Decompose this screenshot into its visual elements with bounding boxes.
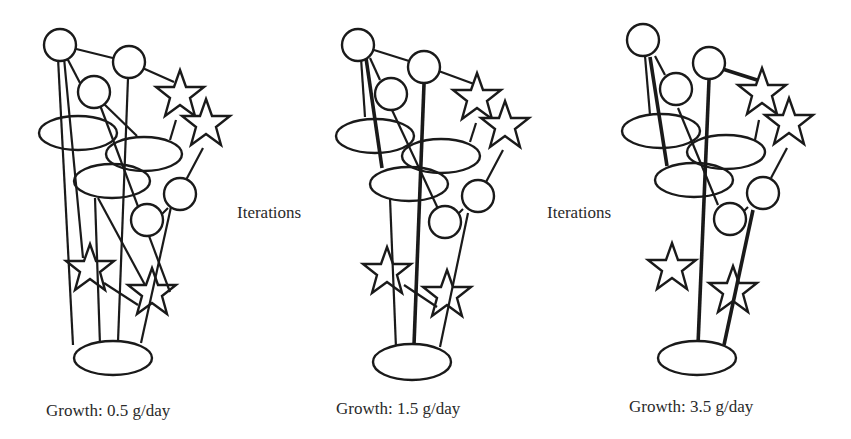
circle-node [375, 78, 407, 110]
ellipse-node [74, 164, 150, 198]
star-node [66, 244, 114, 290]
root-ellipse-node [74, 341, 152, 375]
root-ellipse-node [373, 344, 451, 380]
iterations-label-1: Iterations [237, 203, 301, 223]
circle-node [714, 203, 746, 235]
circle-node [747, 177, 779, 209]
panel-2-network [336, 29, 529, 380]
circle-node [78, 76, 110, 108]
circle-node [131, 204, 163, 236]
circle-node [429, 206, 461, 238]
circle-node [627, 24, 659, 56]
panel-1-network [39, 29, 230, 375]
circle-node [408, 51, 440, 83]
circle-node [462, 180, 494, 212]
panel-3-caption: Growth: 3.5 g/day [629, 397, 753, 417]
ellipse-node [655, 163, 733, 197]
iterations-label-2: Iterations [547, 203, 611, 223]
panel-1-caption: Growth: 0.5 g/day [46, 401, 170, 421]
circle-node [693, 47, 725, 79]
root-ellipse-node [658, 341, 736, 375]
ellipse-node [39, 116, 117, 150]
circle-node [113, 46, 145, 78]
circle-node [342, 29, 374, 61]
panel-3-network [622, 24, 813, 375]
circle-node [44, 29, 76, 61]
circle-node [660, 73, 692, 105]
circle-node [164, 178, 196, 210]
star-node [648, 243, 696, 289]
panel-2-caption: Growth: 1.5 g/day [336, 399, 460, 419]
ellipse-node [370, 167, 448, 201]
network-diagram [0, 0, 851, 439]
